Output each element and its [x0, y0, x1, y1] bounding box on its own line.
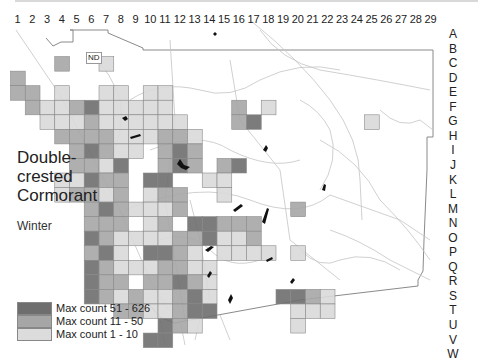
- grid-cell-light: [143, 231, 158, 246]
- grid-cell-medium: [173, 289, 188, 304]
- grid-cell-light: [320, 289, 335, 304]
- grid-cell-medium: [158, 188, 173, 203]
- grid-cell-light: [202, 275, 217, 290]
- row-label: M: [446, 202, 460, 216]
- grid-cell-light: [158, 86, 173, 101]
- grid-cell-light: [129, 144, 144, 159]
- grid-cell-dark: [291, 289, 306, 304]
- grid-cell-light: [232, 231, 247, 246]
- row-label: K: [446, 173, 460, 187]
- grid-cell-medium: [306, 289, 321, 304]
- grid-cell-medium: [114, 188, 129, 203]
- grid-cell-medium: [173, 304, 188, 319]
- grid-cell-light: [217, 173, 232, 188]
- row-label: W: [446, 347, 460, 361]
- row-label: O: [446, 231, 460, 245]
- column-label: 3: [39, 13, 55, 25]
- row-label: T: [446, 303, 460, 317]
- grid-cell-light: [40, 100, 55, 115]
- grid-cell-light: [202, 173, 217, 188]
- no-data-marker: ND: [86, 52, 102, 64]
- grid-cell-light: [202, 289, 217, 304]
- column-label: 22: [319, 13, 335, 25]
- column-label: 9: [128, 13, 144, 25]
- grid-cell-dark: [99, 202, 114, 217]
- grid-cell-light: [158, 202, 173, 217]
- grid-cell-medium: [70, 100, 85, 115]
- grid-cell-medium: [11, 71, 26, 86]
- grid-cell-dark: [173, 275, 188, 290]
- grid-cell-medium: [158, 260, 173, 275]
- grid-cell-light: [188, 260, 203, 275]
- grid-cell-light: [114, 246, 129, 261]
- grid-cell-light: [129, 115, 144, 130]
- grid-cell-light: [188, 129, 203, 144]
- grid-cell-medium: [173, 188, 188, 203]
- grid-cell-light: [143, 86, 158, 101]
- grid-cell-medium: [143, 275, 158, 290]
- grid-cell-medium: [173, 202, 188, 217]
- grid-cell-light: [99, 158, 114, 173]
- grid-cell-dark: [84, 260, 99, 275]
- grid-cell-medium: [158, 217, 173, 232]
- grid-cell-medium: [84, 217, 99, 232]
- row-label: V: [446, 333, 460, 347]
- grid-cell-medium: [247, 217, 262, 232]
- row-label: F: [446, 100, 460, 114]
- map-title-line-3: Cormorant: [17, 186, 97, 205]
- grid-cell-light: [99, 188, 114, 203]
- grid-cell-light: [217, 246, 232, 261]
- legend-label-light: Max count 1 - 10: [56, 328, 138, 340]
- grid-cell-dark: [188, 217, 203, 232]
- lake: [213, 32, 217, 36]
- grid-cell-light: [143, 100, 158, 115]
- grid-cell-light: [143, 129, 158, 144]
- lake: [322, 184, 326, 191]
- row-label: A: [446, 27, 460, 41]
- grid-cell-medium: [173, 319, 188, 334]
- grid-cell-medium: [217, 158, 232, 173]
- map-title-line-2: crested: [17, 167, 73, 186]
- grid-cell-medium: [247, 231, 262, 246]
- map-title-line-1: Double-: [17, 148, 77, 167]
- legend-label-medium: Max count 11 - 50: [56, 315, 143, 327]
- grid-cell-light: [114, 86, 129, 101]
- grid-cell-light: [365, 115, 380, 130]
- row-label: Q: [446, 260, 460, 274]
- grid-cell-dark: [158, 246, 173, 261]
- grid-cell-dark: [84, 100, 99, 115]
- grid-cell-light: [143, 260, 158, 275]
- grid-cell-medium: [99, 260, 114, 275]
- grid-cell-dark: [99, 246, 114, 261]
- column-label: 13: [187, 13, 203, 25]
- column-label: 15: [216, 13, 232, 25]
- grid-cell-medium: [11, 86, 26, 101]
- column-label: 14: [201, 13, 217, 25]
- column-label: 17: [246, 13, 262, 25]
- column-label: 6: [83, 13, 99, 25]
- grid-cell-dark: [158, 319, 173, 334]
- grid-cell-medium: [232, 217, 247, 232]
- grid-cell-dark: [188, 289, 203, 304]
- grid-cell-dark: [276, 289, 291, 304]
- grid-cell-light: [99, 100, 114, 115]
- grid-cell-light: [173, 115, 188, 130]
- column-label: 16: [231, 13, 247, 25]
- grid-cell-medium: [99, 144, 114, 159]
- lake: [233, 204, 243, 212]
- legend-swatch-medium: [17, 315, 52, 328]
- row-label: G: [446, 114, 460, 128]
- grid-cell-medium: [114, 217, 129, 232]
- grid-cell-light: [55, 86, 70, 101]
- column-label: 1: [10, 13, 26, 25]
- grid-cell-light: [55, 115, 70, 130]
- lake: [263, 145, 268, 152]
- grid-cell-medium: [114, 202, 129, 217]
- grid-cell-medium: [158, 144, 173, 159]
- column-label: 25: [364, 13, 380, 25]
- grid-cell-medium: [173, 129, 188, 144]
- column-label: 28: [408, 13, 424, 25]
- grid-cell-light: [158, 115, 173, 130]
- grid-cell-dark: [188, 304, 203, 319]
- row-label: C: [446, 56, 460, 70]
